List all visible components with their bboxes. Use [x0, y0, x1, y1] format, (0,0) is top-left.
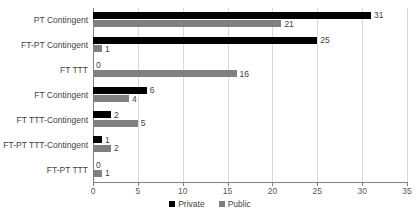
- category-label: FT-PT TTT-Contingent: [0, 140, 88, 150]
- gridline: [183, 8, 184, 182]
- category-label: FT-PT TTT: [0, 165, 88, 175]
- bar-value-label: 1: [105, 45, 110, 54]
- legend-swatch-icon: [219, 201, 225, 207]
- category-label: FT TTT-Contingent: [0, 115, 88, 125]
- category-label: FT TTT: [0, 65, 88, 75]
- x-tick-label: 15: [223, 186, 232, 196]
- bar-value-label: 0: [96, 161, 101, 170]
- bar-chart: PT Contingent3121FT-PT Contingent251FT T…: [0, 0, 420, 221]
- bar-value-label: 21: [284, 20, 293, 29]
- bar-public: [93, 70, 237, 77]
- bar-public: [93, 120, 138, 127]
- gridline: [407, 8, 408, 182]
- bar-public: [93, 170, 102, 177]
- x-tick-label: 20: [268, 186, 277, 196]
- bar-public: [93, 145, 111, 152]
- x-tick-label: 5: [135, 186, 140, 196]
- bar-private: [93, 111, 111, 118]
- x-tick-label: 10: [178, 186, 187, 196]
- legend-item-public[interactable]: Public: [219, 200, 251, 209]
- bar-value-label: 2: [114, 111, 119, 120]
- bar-value-label: 1: [105, 169, 110, 178]
- x-tick-label: 0: [91, 186, 96, 196]
- bar-value-label: 6: [150, 86, 155, 95]
- gridline: [228, 8, 229, 182]
- gridline: [362, 8, 363, 182]
- bar-value-label: 25: [320, 36, 329, 45]
- bar-private: [93, 87, 147, 94]
- bar-value-label: 31: [374, 11, 383, 20]
- bar-value-label: 1: [105, 136, 110, 145]
- category-label: FT Contingent: [0, 90, 88, 100]
- bar-private: [93, 12, 371, 19]
- x-axis-line: [93, 182, 408, 183]
- bar-value-label: 0: [96, 61, 101, 70]
- bar-private: [93, 37, 317, 44]
- gridline: [138, 8, 139, 182]
- gridline: [317, 8, 318, 182]
- legend-swatch-icon: [169, 201, 175, 207]
- bar-public: [93, 20, 281, 27]
- bar-public: [93, 45, 102, 52]
- x-tick-label: 35: [402, 186, 411, 196]
- category-label: PT Contingent: [0, 15, 88, 25]
- category-label: FT-PT Contingent: [0, 40, 88, 50]
- bar-private: [93, 136, 102, 143]
- bar-value-label: 5: [141, 119, 146, 128]
- legend-item-private[interactable]: Private: [169, 200, 204, 209]
- bar-value-label: 16: [240, 70, 249, 79]
- bar-public: [93, 95, 129, 102]
- gridline: [272, 8, 273, 182]
- legend-label: Private: [178, 200, 204, 209]
- x-tick-label: 30: [357, 186, 366, 196]
- chart-legend: PrivatePublic: [0, 200, 420, 209]
- bar-value-label: 4: [132, 95, 137, 104]
- x-tick-label: 25: [313, 186, 322, 196]
- bar-value-label: 2: [114, 144, 119, 153]
- legend-label: Public: [228, 200, 251, 209]
